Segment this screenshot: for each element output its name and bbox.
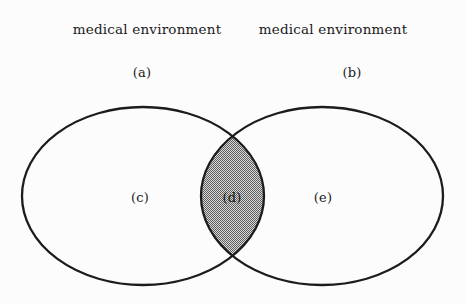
- region-label-e: (e): [314, 190, 332, 206]
- region-label-b: (b): [342, 65, 361, 81]
- right-set-title: medical environment: [259, 21, 408, 37]
- left-set-title: medical environment: [73, 21, 222, 37]
- venn-diagram: medical environment medical environment …: [0, 0, 465, 304]
- region-label-d: (d): [222, 190, 241, 206]
- venn-diagram-canvas: [0, 0, 465, 304]
- region-label-a: (a): [133, 65, 152, 81]
- region-label-c: (c): [131, 190, 149, 206]
